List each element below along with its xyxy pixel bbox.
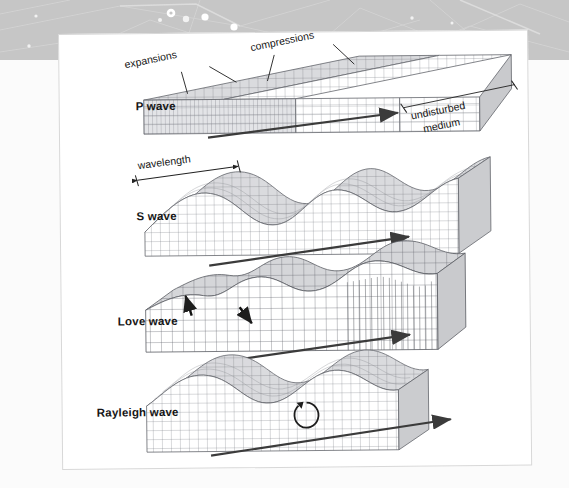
figure-card: expansions compressions undisturbed medi… <box>58 29 532 469</box>
annotation-wavelength: wavelength <box>136 152 191 171</box>
row-label-p-wave: P wave <box>72 100 176 113</box>
love-wave-block <box>145 240 466 352</box>
row-label-s-wave: S wave <box>73 210 177 223</box>
annotation-expansions: expansions <box>123 48 177 70</box>
row-label-rayleigh-wave: Rayleigh wave <box>63 406 179 419</box>
rayleigh-wave-block <box>146 349 429 452</box>
annotation-compressions: compressions <box>249 30 315 53</box>
seismic-wave-diagram: expansions compressions undisturbed medi… <box>59 30 531 468</box>
figure-canvas: expansions compressions undisturbed medi… <box>0 0 569 488</box>
row-label-love-wave: Love wave <box>70 315 178 328</box>
figure-illustration: expansions compressions undisturbed medi… <box>59 30 531 468</box>
